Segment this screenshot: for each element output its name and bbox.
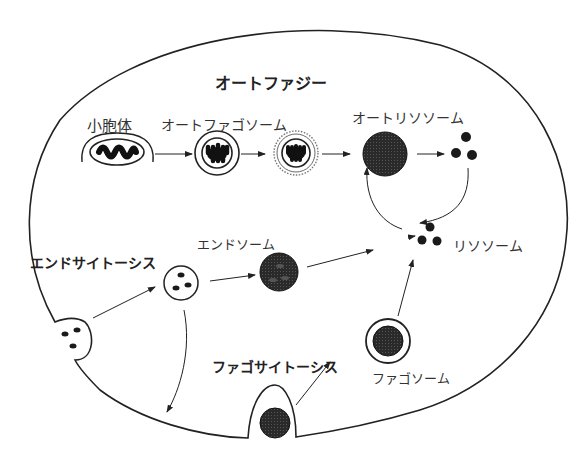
early-endosome-icon [164, 266, 198, 300]
cell-diagram: オートファジー 小胞体 オートファゴソーム オートリソソーム リソソーム エンド… [0, 0, 573, 460]
autophagosome-label: オートファゴソーム [161, 114, 287, 134]
organelle-label: 小胞体 [87, 114, 132, 135]
diagram-graphics [0, 0, 573, 460]
endocytic-vesicle-budding-icon [62, 328, 81, 349]
lysosome-icon [418, 223, 442, 246]
lysosome-label: リソソーム [453, 235, 523, 255]
degradation-products-icon [451, 132, 477, 160]
autolysosome-icon [363, 132, 407, 176]
phagosome-label: ファゴソーム [372, 368, 450, 387]
autophagosome-icon [195, 131, 239, 175]
phagocytosis-label: ファゴサイトーシス [212, 356, 338, 376]
endocytosis-label: エンドサイトーシス [30, 252, 156, 272]
autolysosome-label: オートリソソーム [352, 107, 464, 127]
autophagy-title: オートファジー [215, 70, 327, 94]
organelle-icon [82, 133, 153, 165]
autophagosome-fused-icon [274, 131, 318, 175]
phagosome-icon [366, 319, 410, 363]
endosome-label: エンドソーム [197, 234, 275, 253]
endosome-icon [260, 253, 298, 291]
phagocytosed-particle-icon [260, 408, 290, 438]
